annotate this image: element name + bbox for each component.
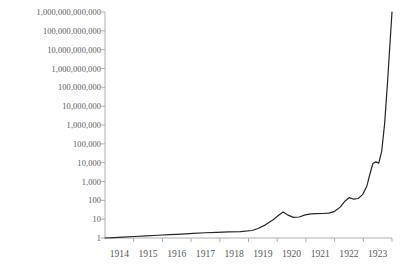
x-axis-tick-marks [134, 238, 392, 242]
plot-area [0, 0, 400, 264]
data-series-line [105, 12, 392, 238]
y-axis-tick-marks [101, 12, 105, 238]
chart-figure: 1,000,000,000,000100,000,000,00010,000,0… [0, 0, 400, 264]
